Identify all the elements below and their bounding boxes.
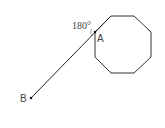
point-b-label: B [20,93,27,104]
regular-octagon [95,16,151,73]
segment-ab [31,16,111,98]
point-a-dot [94,31,97,34]
geometry-diagram: 180° A B [0,0,165,128]
point-a-label: A [97,33,104,44]
angle-label: 180° [72,20,91,31]
point-b-dot [30,97,33,100]
